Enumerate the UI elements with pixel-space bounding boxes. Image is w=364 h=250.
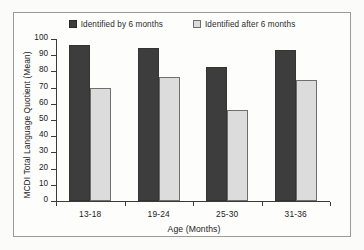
x-axis-tick <box>193 202 194 206</box>
y-axis-tick: 100 <box>51 39 56 40</box>
y-axis-tick-label: 100 <box>34 33 48 42</box>
y-axis-tick-label: 60 <box>39 98 48 107</box>
y-axis-tick: 40 <box>51 136 56 137</box>
y-axis-tick-label: 30 <box>39 146 48 155</box>
y-axis-line <box>56 39 57 202</box>
bar-group <box>138 39 180 201</box>
y-axis-tick-label: 20 <box>39 163 48 172</box>
plot-area: 0102030405060708090100 13-1819-2425-3031… <box>56 39 330 202</box>
legend-swatch-dark <box>69 20 77 28</box>
bar <box>69 45 90 201</box>
x-axis-tick <box>330 202 331 206</box>
chart-legend: Identified by 6 months Identified after … <box>13 14 351 34</box>
x-axis-title: Age (Months) <box>56 224 332 234</box>
y-axis-tick-label: 0 <box>43 195 48 204</box>
y-axis-tick: 80 <box>51 71 56 72</box>
legend-entry-identified-by-6-months: Identified by 6 months <box>69 20 163 29</box>
bar <box>90 88 111 201</box>
x-axis-category-label: 13-18 <box>60 209 120 219</box>
y-axis-tick-label: 40 <box>39 130 48 139</box>
y-axis-tick-label: 80 <box>39 65 48 74</box>
x-axis-tick <box>125 202 126 206</box>
y-axis-tick: 20 <box>51 169 56 170</box>
y-axis-tick-label: 50 <box>39 114 48 123</box>
y-axis-tick-label: 70 <box>39 82 48 91</box>
y-axis-tick: 50 <box>51 120 56 121</box>
y-axis-tick: 60 <box>51 104 56 105</box>
chart-figure: Identified by 6 months Identified after … <box>0 0 364 250</box>
bar <box>159 77 180 201</box>
x-axis-tick <box>262 202 263 206</box>
bar <box>275 50 296 201</box>
bar-group <box>69 39 111 201</box>
bar-group <box>275 39 317 201</box>
y-axis-tick-label: 10 <box>39 179 48 188</box>
legend-label-series-2: Identified after 6 months <box>205 20 295 29</box>
bar-group <box>206 39 248 201</box>
x-axis-category-label: 31-36 <box>266 209 326 219</box>
x-axis-category-label: 25-30 <box>197 209 257 219</box>
y-axis-tick: 90 <box>51 55 56 56</box>
bar <box>206 67 227 201</box>
legend-label-series-1: Identified by 6 months <box>81 20 163 29</box>
x-axis-tick <box>56 202 57 206</box>
y-axis-tick: 70 <box>51 88 56 89</box>
y-axis-tick: 10 <box>51 185 56 186</box>
y-axis-tick: 30 <box>51 152 56 153</box>
x-axis-category-label: 19-24 <box>129 209 189 219</box>
y-axis-tick-label: 90 <box>39 49 48 58</box>
bar <box>138 48 159 201</box>
legend-entry-identified-after-6-months: Identified after 6 months <box>193 20 295 29</box>
legend-swatch-light <box>193 20 201 28</box>
y-axis-title: MCDI Total Language Quotient (Mean) <box>22 40 36 210</box>
bar <box>296 80 317 202</box>
bar <box>227 110 248 201</box>
